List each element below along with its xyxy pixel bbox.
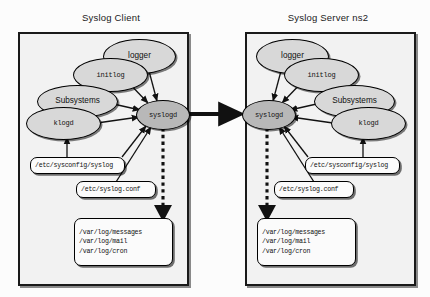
server-filebox-conf-path: /etc/syslog.conf [279,185,349,194]
client-log-path-cron: /var/log/cron [79,247,168,256]
client-log-path-messages: /var/log/messages [79,228,168,237]
server-filebox-sysconfig-path: /etc/sysconfig/syslog [310,161,395,170]
server-node-klogd[interactable]: klogd [331,107,406,140]
server-node-subsystems-label: Subsystems [332,97,377,105]
client-node-subsystems-label: Subsystems [55,97,100,105]
client-filebox-sysconfig-path: /etc/sysconfig/syslog [35,161,120,170]
client-filebox-sysconfig[interactable]: /etc/sysconfig/syslog [30,157,125,174]
server-panel-title: Syslog Server ns2 [268,12,388,23]
server-filebox-logs[interactable]: /var/log/messages /var/log/mail /var/log… [257,218,356,266]
client-node-klogd[interactable]: klogd [26,107,101,140]
client-node-klogd-label: klogd [53,120,73,127]
client-node-initlog-label: initlog [96,72,124,79]
server-log-path-messages: /var/log/messages [262,228,351,237]
client-log-path-mail: /var/log/mail [79,237,168,246]
client-panel-title: Syslog Client [56,12,166,23]
server-node-klogd-label: klogd [358,120,378,127]
client-node-syslogd-label: syslogd [149,112,177,119]
client-node-logger-label: logger [128,52,151,60]
server-node-syslogd[interactable]: syslogd [242,100,296,130]
client-filebox-conf[interactable]: /etc/syslog.conf [76,181,156,198]
server-node-logger-label: logger [281,52,304,60]
server-filebox-conf[interactable]: /etc/syslog.conf [274,181,354,198]
server-filebox-sysconfig[interactable]: /etc/sysconfig/syslog [305,157,400,174]
server-log-path-cron: /var/log/cron [262,247,351,256]
client-filebox-logs[interactable]: /var/log/messages /var/log/mail /var/log… [74,218,173,266]
syslog-architecture-diagram: Syslog Client Syslog Server ns2 [0,0,430,297]
client-filebox-conf-path: /etc/syslog.conf [81,185,151,194]
client-node-syslogd[interactable]: syslogd [136,100,190,130]
server-node-syslogd-label: syslogd [255,112,283,119]
server-log-path-mail: /var/log/mail [262,237,351,246]
server-node-initlog-label: initlog [307,72,335,79]
